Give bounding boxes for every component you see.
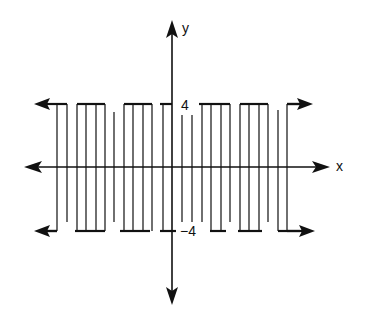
y-axis-label: y <box>182 20 189 36</box>
tick-label-neg4: −4 <box>180 223 196 239</box>
square-wave-graph: x y 4 −4 <box>0 0 368 321</box>
x-axis-label: x <box>336 158 343 174</box>
y-axis: y <box>166 20 189 305</box>
x-axis: x <box>24 158 343 174</box>
tick-label-4: 4 <box>181 97 189 113</box>
